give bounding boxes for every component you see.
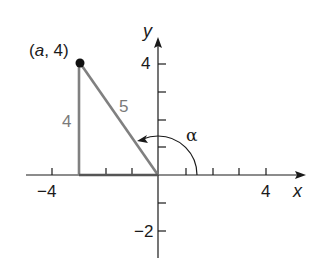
- point-label: (a, 4): [29, 42, 69, 59]
- point-label-suffix: , 4): [44, 41, 69, 60]
- y-tick-label-neg2: −2: [134, 223, 153, 240]
- hypotenuse-label: 5: [119, 98, 128, 115]
- triangle-hypotenuse: [80, 63, 158, 175]
- y-axis-label: y: [143, 22, 152, 40]
- point-a-4: [76, 59, 85, 68]
- x-tick-label-4: 4: [261, 183, 270, 200]
- diagram-canvas: (a, 4) y x 4 −2 −4 4 4 5 α: [0, 0, 332, 271]
- y-tick-label-4: 4: [141, 55, 150, 72]
- triangle: [79, 63, 158, 175]
- x-tick-label-neg4: −4: [37, 183, 56, 200]
- y-axis: [154, 37, 166, 258]
- angle-arrow-icon: [137, 135, 148, 143]
- angle-alpha-label: α: [186, 127, 197, 144]
- x-axis-label: x: [293, 182, 302, 200]
- x-axis: [26, 168, 306, 179]
- y-axis-ticks: [158, 64, 166, 231]
- point-label-var: a: [35, 41, 44, 60]
- vertical-side-label: 4: [62, 113, 71, 130]
